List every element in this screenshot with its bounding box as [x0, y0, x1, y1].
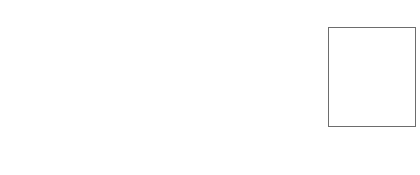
x-axis-tick-labels: [57, 135, 314, 151]
chart-figure: [0, 0, 420, 175]
chart-legend: [328, 27, 416, 127]
y-axis-tick-labels: [26, 0, 52, 146]
y-axis-title-line-1: [4, 0, 24, 146]
plot-svg: [57, 14, 314, 134]
plot-area: [57, 14, 314, 134]
